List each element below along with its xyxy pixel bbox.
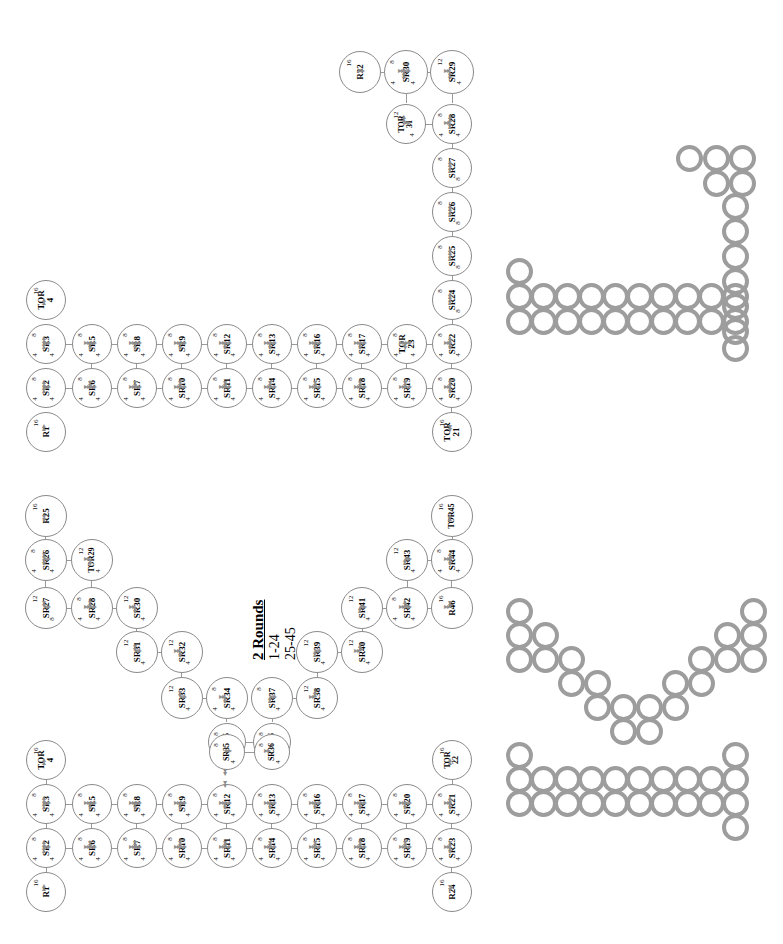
thumbnail-ring — [722, 335, 749, 362]
node-weight: 8 — [436, 202, 444, 206]
link-arrow: ▸▸ — [177, 651, 183, 657]
node-R1[interactable]: R116 — [26, 872, 66, 912]
node-port: 4 — [454, 397, 462, 401]
thumbnail-ring — [674, 766, 701, 793]
link — [406, 364, 407, 368]
node-port: 4 — [408, 133, 416, 137]
link — [158, 652, 161, 653]
link — [91, 824, 92, 828]
caption-line-3: 25-45 — [283, 600, 299, 660]
link-arrow: ▸▸ — [135, 844, 141, 850]
link-arrow: ▸▸ — [44, 340, 50, 346]
thumbnail-ring — [506, 258, 533, 285]
node-port: 4 — [409, 857, 417, 861]
node-port: 4 — [211, 707, 219, 711]
link — [427, 344, 432, 345]
node-weight: 8 — [390, 597, 398, 601]
node-port: 4 — [139, 617, 147, 621]
thumbnail-ring — [506, 742, 533, 769]
link — [66, 344, 72, 345]
node-weight: 8 — [211, 378, 219, 382]
node-SR36[interactable]: SR3684 — [254, 734, 290, 770]
node-weight: 8 — [256, 794, 264, 798]
node-weight: 8 — [211, 838, 219, 842]
link-arrow: ▸▸ — [444, 604, 450, 610]
node-port: 4 — [121, 397, 129, 401]
link — [66, 804, 72, 805]
link-arrow: ▸▸ — [44, 604, 50, 610]
link — [428, 72, 430, 73]
node-port: 4 — [139, 353, 147, 357]
thumbnail-ring — [674, 790, 701, 817]
link-arrow: ▸▸ — [129, 800, 135, 806]
node-SR40[interactable]: SR40124 — [341, 631, 383, 673]
node-weight: 8 — [391, 334, 399, 338]
thumbnail-ring — [506, 622, 533, 649]
link — [247, 344, 252, 345]
link-arrow: ▸▸ — [225, 340, 231, 346]
node-port: 4 — [364, 813, 372, 817]
link — [247, 388, 252, 389]
node-port: 4 — [166, 857, 174, 861]
link — [451, 824, 452, 828]
link — [271, 364, 272, 368]
node-port: 4 — [391, 857, 399, 861]
thumbnail-ring — [740, 598, 767, 625]
node-port: 4 — [274, 353, 282, 357]
node-port: 4 — [364, 353, 372, 357]
node-port: 4 — [121, 813, 129, 817]
link-arrow: ▸▸ — [84, 800, 90, 806]
thumbnail-ring — [578, 308, 605, 335]
link-arrow: ▸▸ — [84, 844, 90, 850]
node-weight: 8 — [301, 378, 309, 382]
thumbnail-ring — [506, 646, 533, 673]
node-weight: 8 — [436, 794, 444, 798]
node-port: 4 — [30, 857, 38, 861]
thumbnail-ring — [532, 622, 559, 649]
thumbnail-ring — [722, 790, 749, 817]
link-arrow: ▸▸ — [405, 384, 411, 390]
link — [382, 848, 387, 849]
thumbnail-ring — [636, 718, 663, 745]
link — [136, 824, 137, 828]
link-arrow: ▸▸ — [225, 800, 231, 806]
link — [226, 364, 227, 368]
link-arrow: ▸▸ — [84, 340, 90, 346]
thumbnail-ring — [688, 670, 715, 697]
link-arrow: ▸▸ — [90, 384, 96, 390]
node-weight: 8 — [30, 334, 38, 338]
node-port: 4 — [139, 813, 147, 817]
node-port: 4 — [274, 707, 282, 711]
node-R24[interactable]: R2416 — [432, 872, 472, 912]
node-TOR21[interactable]: TOR2116 — [432, 412, 472, 452]
link-arrow: ▸▸ — [354, 800, 360, 806]
node-port: 4 — [211, 813, 219, 817]
node-port: 4 — [436, 857, 444, 861]
node-port: 4 — [48, 813, 56, 817]
node-weight: 8 — [30, 838, 38, 842]
node-port: 4 — [346, 397, 354, 401]
link — [452, 276, 453, 280]
node-R46[interactable]: R4616 — [431, 587, 473, 629]
node-port: 4 — [121, 353, 129, 357]
node-weight: 16 — [31, 503, 39, 510]
node-R1[interactable]: R116 — [26, 412, 66, 452]
node-weight: 8 — [256, 378, 264, 382]
link-arrow: ▸▸ — [264, 384, 270, 390]
node-weight: 8 — [76, 334, 84, 338]
node-port: 8 — [454, 309, 462, 313]
node-weight: 8 — [210, 687, 218, 691]
node-port: 4 — [391, 397, 399, 401]
link-arrow: ▸▸ — [447, 255, 453, 261]
thumbnail-ring — [722, 308, 749, 335]
node-port: 4 — [30, 397, 38, 401]
node-SR38[interactable]: SR38124 — [296, 677, 338, 719]
link — [407, 581, 408, 587]
link-arrow: ▸▸ — [90, 844, 96, 850]
link-arrow: ▸▸ — [90, 604, 96, 610]
thumbnail-ring — [530, 790, 557, 817]
link-arrow: ▸▸ — [447, 847, 453, 853]
link-arrow: ▸▸ — [135, 384, 141, 390]
link — [382, 388, 387, 389]
link — [203, 698, 206, 699]
